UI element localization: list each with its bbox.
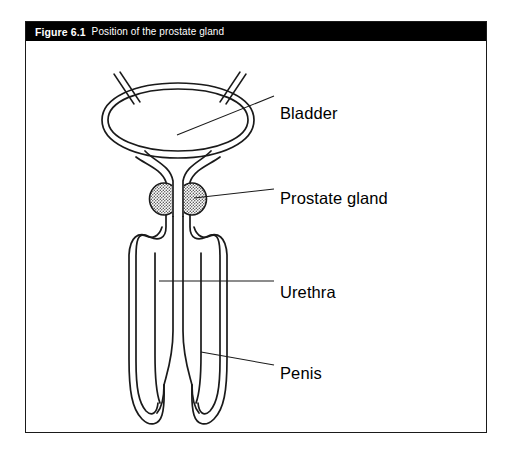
- label-penis: Penis: [280, 364, 322, 383]
- penis-septum-left: [155, 253, 160, 403]
- leader-line-penis: [201, 352, 274, 365]
- corpus-cavernosum-left: [136, 227, 162, 414]
- label-prostate-gland: Prostate gland: [280, 189, 388, 208]
- label-urethra: Urethra: [280, 283, 336, 302]
- figure-panel: Figure 6.1 Position of the prostate glan…: [25, 21, 487, 433]
- anatomy-diagram: Bladder Prostate gland Urethra Penis: [26, 41, 486, 433]
- penis-septum-right: [196, 253, 201, 403]
- corpus-cavernosum-right: [194, 227, 220, 414]
- prostate-gland-shape: [150, 182, 207, 217]
- penis-outer-left: [129, 213, 166, 424]
- figure-number: Figure 6.1: [35, 26, 86, 38]
- figure-title: Position of the prostate gland: [92, 26, 225, 37]
- anatomy-illustration: [26, 41, 486, 433]
- leader-lines: [159, 96, 274, 365]
- urethra-left-wall: [164, 213, 173, 385]
- leader-line-bladder: [177, 96, 274, 135]
- label-bladder: Bladder: [280, 104, 338, 123]
- penis-outer-right: [190, 213, 227, 424]
- bladder-outer-wall: [102, 83, 254, 158]
- figure-caption-bar: Figure 6.1 Position of the prostate glan…: [26, 22, 486, 41]
- urethra-right-wall: [183, 213, 192, 385]
- bladder-inner-wall: [108, 89, 248, 151]
